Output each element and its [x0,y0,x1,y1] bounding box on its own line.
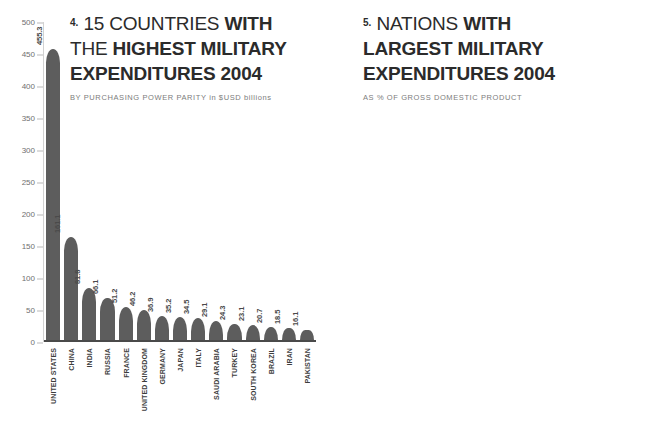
bar-slot: 18.5 [280,20,298,340]
title-part-strong: EXPENDITURES 2004 [363,63,555,84]
title-part-light: NATIONS [376,13,458,34]
bar: 24.3 [227,324,241,340]
category-label: UNITED STATES [50,348,57,404]
bar: 18.5 [282,328,296,340]
chart-index-number: 5. [363,17,371,28]
bar: 35.2 [173,317,187,340]
bar-slot: 455.3 [44,20,62,340]
category-label: UNITED KINGDOM [140,348,147,411]
y-axis-tick-label: 400 [22,82,44,91]
bar: 20.7 [264,327,278,340]
category-label: SOUTH KOREA [249,348,256,401]
bar: 16.1 [300,330,314,340]
category-label: FRANCE [122,348,129,378]
bar-slot: 16.1 [298,20,316,340]
category-label: RUSSIA [104,348,111,375]
bar-value-label: 34.5 [182,300,191,314]
bar-slot: 23.1 [244,20,262,340]
bar-value-label: 46.2 [128,292,137,306]
category-slot: SOUTH KOREA [244,342,262,428]
title-part-strong: LARGEST MILITARY [363,38,543,59]
bar-slot: 24.3 [225,20,243,340]
bar-value-label: 24.3 [218,306,227,320]
bar: 161.1 [64,237,78,340]
bar-slot: 34.5 [189,20,207,340]
plot-area-left: 455.3161.181.866.151.246.236.935.234.529… [44,22,316,342]
y-axis-tick-label: 350 [22,114,44,123]
bar: 46.2 [137,310,151,340]
infographic-root: 4. 15 COUNTRIES WITH THE HIGHEST MILITAR… [0,0,669,431]
category-label: SAUDI ARABIA [213,348,220,400]
bar-slot: 46.2 [135,20,153,340]
category-label: GERMANY [158,348,165,384]
chart-subtitle: AS % OF GROSS DOMESTIC PRODUCT [363,93,663,102]
bar-value-label: 18.5 [273,310,282,324]
category-slot: ITALY [189,342,207,428]
bar-value-label: 161.1 [53,215,62,233]
category-label: ITALY [195,348,202,368]
bar-value-label: 16.1 [291,312,300,326]
bar: 34.5 [191,318,205,340]
bar-value-label: 66.1 [91,280,100,294]
y-axis-tick-label: 50 [26,306,44,315]
bar-slot: 36.9 [153,20,171,340]
title-line-1: 5. NATIONS WITH [363,10,663,36]
bar-value-label: 51.2 [110,289,119,303]
y-axis-tick-label: 250 [22,178,44,187]
category-slot: TURKEY [225,342,243,428]
y-axis-tick-label: 150 [22,242,44,251]
bar: 29.1 [209,321,223,340]
y-axis-tick-label: 300 [22,146,44,155]
category-slot: JAPAN [171,342,189,428]
category-labels-left: UNITED STATESCHINAINDIARUSSIAFRANCEUNITE… [44,342,316,428]
category-label: INDIA [86,348,93,368]
y-axis-tick-label: 200 [22,210,44,219]
bar-value-label: 81.8 [73,269,82,283]
category-label: TURKEY [231,348,238,377]
bar-value-label: 455.3 [35,26,44,44]
bar-value-label: 23.1 [237,307,246,321]
category-label: IRAN [285,348,292,366]
bar: 66.1 [100,298,114,340]
title-part-strong: WITH [458,13,511,34]
title-line-3: EXPENDITURES 2004 [363,61,663,86]
bar: 81.8 [82,288,96,340]
category-slot: FRANCE [117,342,135,428]
bar: 455.3 [46,49,60,340]
bar-series-left: 455.3161.181.866.151.246.236.935.234.529… [44,20,316,340]
category-slot: BRAZIL [262,342,280,428]
bar: 23.1 [246,325,260,340]
bar-slot: 29.1 [207,20,225,340]
category-slot: RUSSIA [98,342,116,428]
category-label: CHINA [68,348,75,371]
title-line-2: LARGEST MILITARY [363,36,663,61]
bar-value-label: 29.1 [200,303,209,317]
chart-panel-military-expenditures-usd: 4. 15 COUNTRIES WITH THE HIGHEST MILITAR… [0,0,325,431]
category-label: JAPAN [177,348,184,372]
category-slot: GERMANY [153,342,171,428]
category-slot: UNITED STATES [44,342,62,428]
category-slot: UNITED KINGDOM [135,342,153,428]
bar-value-label: 20.7 [255,309,264,323]
category-label: PAKISTAN [304,348,311,384]
chart-heading-right: 5. NATIONS WITH LARGEST MILITARY EXPENDI… [363,10,663,102]
category-slot: INDIA [80,342,98,428]
bar-slot: 20.7 [262,20,280,340]
y-axis-tick-label: 100 [22,274,44,283]
bar-slot: 161.1 [62,20,80,340]
chart-panel-military-expenditures-gdp: 5. NATIONS WITH LARGEST MILITARY EXPENDI… [325,0,669,431]
category-label: BRAZIL [267,348,274,374]
bar-value-label: 36.9 [146,298,155,312]
bar-value-label: 35.2 [164,299,173,313]
y-axis-tick-label: 500 [22,18,44,27]
bar: 36.9 [155,316,169,340]
bar-slot: 35.2 [171,20,189,340]
category-slot: SAUDI ARABIA [207,342,225,428]
category-slot: CHINA [62,342,80,428]
category-slot: IRAN [280,342,298,428]
category-slot: PAKISTAN [298,342,316,428]
y-axis-tick-label: 0 [31,338,44,347]
y-axis-tick-label: 450 [22,50,44,59]
bar: 51.2 [119,307,133,340]
